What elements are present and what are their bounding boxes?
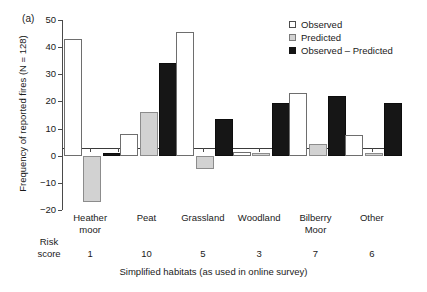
x-axis-tick bbox=[259, 148, 260, 152]
y-axis-tick bbox=[58, 129, 62, 130]
figure-panel-a: (a) Frequency of reported fires (N = 128… bbox=[0, 0, 427, 292]
bar-difference bbox=[384, 103, 402, 156]
x-axis-tick bbox=[372, 148, 373, 152]
y-axis-tick bbox=[58, 156, 62, 157]
x-axis-title: Simplified habitats (as used in online s… bbox=[0, 266, 427, 277]
bar-observed bbox=[120, 134, 138, 156]
legend-label-observed-minus-predicted: Observed – Predicted bbox=[301, 44, 393, 57]
y-axis-tick-label: 20 bbox=[30, 95, 56, 106]
bar-difference bbox=[215, 119, 233, 156]
legend: Observed Predicted Observed – Predicted bbox=[289, 18, 393, 57]
bar-observed bbox=[289, 93, 307, 155]
bar-predicted bbox=[365, 153, 383, 156]
legend-swatch-predicted-icon bbox=[289, 34, 296, 41]
bar-observed bbox=[64, 39, 82, 156]
bar-observed bbox=[176, 32, 194, 156]
bar-difference bbox=[159, 63, 177, 155]
bar-predicted bbox=[83, 156, 101, 202]
legend-label-predicted: Predicted bbox=[301, 31, 341, 44]
y-axis-tick-label: 40 bbox=[30, 41, 56, 52]
y-axis-tick-label: 10 bbox=[30, 123, 56, 134]
bar-predicted bbox=[252, 153, 270, 156]
legend-item-predicted: Predicted bbox=[289, 31, 393, 44]
y-axis-tick bbox=[58, 183, 62, 184]
y-axis-tick bbox=[58, 210, 62, 211]
legend-label-observed: Observed bbox=[301, 18, 342, 31]
y-axis-tick bbox=[58, 20, 62, 21]
x-axis-tick bbox=[203, 148, 204, 152]
legend-item-observed-minus-predicted: Observed – Predicted bbox=[289, 44, 393, 57]
bar-predicted bbox=[140, 112, 158, 155]
y-axis-tick-label: 0 bbox=[30, 150, 56, 161]
legend-swatch-difference-icon bbox=[289, 47, 296, 54]
y-axis-tick-label: 30 bbox=[30, 68, 56, 79]
bar-difference bbox=[103, 153, 121, 156]
x-axis-tick bbox=[90, 148, 91, 152]
y-axis-title: Frequency of reported fires (N = 128) bbox=[17, 14, 28, 214]
category-label-line1: Bilberry bbox=[299, 212, 331, 223]
category-label-line1: Peat bbox=[137, 212, 157, 223]
y-axis-tick-label: −20 bbox=[30, 204, 56, 215]
risk-score-value: 6 bbox=[336, 248, 408, 259]
category-label-line1: Other bbox=[360, 212, 384, 223]
legend-swatch-observed-icon bbox=[289, 21, 296, 28]
risk-score-label-line1: Risk bbox=[40, 236, 58, 247]
y-axis-tick-label: 50 bbox=[30, 14, 56, 25]
bar-predicted bbox=[196, 156, 214, 170]
bar-predicted bbox=[309, 144, 327, 156]
bar-observed bbox=[345, 135, 363, 155]
bar-difference bbox=[328, 96, 346, 156]
x-axis-category-label: Other bbox=[336, 212, 408, 224]
category-label-line1: Heather bbox=[73, 212, 107, 223]
bar-observed bbox=[233, 152, 251, 156]
bar-difference bbox=[272, 103, 290, 156]
category-label-line1: Woodland bbox=[238, 212, 281, 223]
y-axis-tick bbox=[58, 101, 62, 102]
y-axis-tick bbox=[58, 74, 62, 75]
category-label-line2: moor bbox=[54, 224, 126, 236]
category-label-line1: Grassland bbox=[181, 212, 224, 223]
y-axis-tick bbox=[58, 47, 62, 48]
y-axis-tick-label: −10 bbox=[30, 177, 56, 188]
legend-item-observed: Observed bbox=[289, 18, 393, 31]
category-label-line2: Moor bbox=[279, 224, 351, 236]
